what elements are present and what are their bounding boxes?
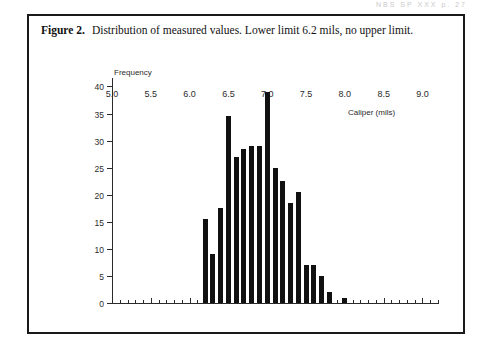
y-axis-tick-label: 10 — [78, 245, 104, 255]
figure-box: Figure 2.Distribution of measured values… — [27, 14, 465, 334]
histogram-bar — [319, 276, 324, 303]
histogram-bar — [304, 265, 309, 303]
histogram-bar — [210, 254, 215, 303]
y-axis-label: Frequency — [114, 68, 152, 77]
histogram-bar — [280, 181, 285, 303]
histogram-bar — [288, 203, 293, 303]
histogram-bar — [311, 265, 316, 303]
histogram-bar — [327, 292, 332, 303]
histogram-bar — [203, 219, 208, 303]
page-header-text: NBS SP XXX p. 27 — [376, 1, 467, 8]
y-axis-tick-label: 5 — [78, 272, 104, 282]
y-axis-tick-label: 0 — [78, 299, 104, 309]
histogram-bar — [226, 116, 231, 303]
histogram-bar — [265, 92, 270, 303]
x-axis-label: Caliper (mils) — [348, 108, 395, 117]
y-axis-tick-label: 30 — [78, 137, 104, 147]
histogram-bar — [241, 149, 246, 303]
figure-caption-text: Distribution of measured values. Lower l… — [92, 24, 413, 36]
figure-number: Figure 2. — [41, 24, 85, 36]
y-axis-tick-label: 25 — [78, 164, 104, 174]
histogram-bar — [273, 168, 278, 303]
figure-caption: Figure 2.Distribution of measured values… — [41, 24, 453, 36]
histogram-bar — [218, 208, 223, 303]
y-axis-tick-label: 15 — [78, 218, 104, 228]
histogram-bar — [257, 146, 262, 303]
histogram-bar — [296, 192, 301, 303]
histogram-plot: Frequency 0510152025303540 5.05.56.06.57… — [112, 82, 432, 304]
x-axis-minor-tick — [438, 300, 439, 304]
histogram-bar — [234, 157, 239, 303]
y-axis-tick-label: 40 — [78, 82, 104, 92]
histogram-bar — [342, 298, 347, 303]
y-axis-tick-label: 35 — [78, 110, 104, 120]
y-axis-tick-label: 20 — [78, 191, 104, 201]
histogram-bar — [249, 146, 254, 303]
